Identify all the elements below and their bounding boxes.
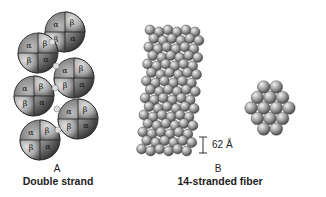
diagram-canvas: αββααββααββααββααββααββα <box>0 0 326 197</box>
subunit-sphere <box>137 144 147 154</box>
subunit-label: α <box>70 34 76 43</box>
subunit-sphere <box>164 146 174 156</box>
subunit-label: α <box>22 84 28 93</box>
subunit-sphere <box>173 144 183 154</box>
subunit-sphere <box>190 87 200 97</box>
subunit-sphere <box>143 119 153 129</box>
subunit-label: β <box>70 18 75 27</box>
hemoglobin-tetramer: αββα <box>54 58 94 98</box>
subunit-sphere <box>184 51 194 61</box>
subunit-sphere <box>145 85 155 95</box>
subunit-sphere <box>166 51 176 61</box>
subunit-label: α <box>79 80 85 89</box>
subunit-label: β <box>27 56 32 65</box>
subunit-label: β <box>63 81 68 90</box>
subunit-label: α <box>26 41 32 50</box>
subunit-label: β <box>23 99 28 108</box>
strand-cross-section <box>270 123 283 136</box>
subunit-sphere <box>146 146 156 156</box>
scale-bar <box>199 137 207 153</box>
subunit-sphere <box>188 121 198 131</box>
subunit-sphere <box>161 119 171 129</box>
scale-label: 62 Å <box>212 139 233 150</box>
subunit-label: α <box>39 98 45 107</box>
subunit-label: β <box>83 105 88 114</box>
subunit-sphere <box>144 102 154 112</box>
subunit-sphere <box>182 146 192 156</box>
subunit-sphere <box>165 68 175 78</box>
subunit-label: β <box>45 126 50 135</box>
hemoglobin-tetramer: αββα <box>14 76 54 116</box>
panel-b-letter: B <box>211 163 225 174</box>
subunit-sphere <box>192 70 202 80</box>
subunit-sphere <box>149 34 159 44</box>
subunit-label: β <box>39 82 44 91</box>
subunit-label: α <box>53 20 59 29</box>
subunit-sphere <box>155 144 165 154</box>
subunit-sphere <box>162 102 172 112</box>
subunit-sphere <box>148 51 158 61</box>
subunit-label: α <box>83 121 89 130</box>
fiber-side-view <box>137 25 204 156</box>
subunit-sphere <box>194 36 204 46</box>
subunit-sphere <box>179 119 189 129</box>
subunit-sphere <box>183 68 193 78</box>
subunit-label: β <box>67 122 72 131</box>
subunit-sphere <box>181 85 191 95</box>
hemoglobin-tetramer: αββα <box>58 99 98 139</box>
subunit-label: β <box>43 39 48 48</box>
hemoglobin-tetramer: αββα <box>20 120 60 160</box>
subunit-sphere <box>178 136 188 146</box>
subunit-sphere <box>160 136 170 146</box>
subunit-sphere <box>185 34 195 44</box>
subunit-label: α <box>62 66 68 75</box>
subunit-sphere <box>189 104 199 114</box>
subunit-sphere <box>147 68 157 78</box>
subunit-label: α <box>43 55 49 64</box>
subunit-label: α <box>45 142 51 151</box>
panel-a-letter: A <box>50 163 64 174</box>
strand-cross-section <box>257 123 270 136</box>
panel-b-caption: 14-stranded fiber <box>170 175 270 187</box>
subunit-label: β <box>79 64 84 73</box>
subunit-label: α <box>28 128 34 137</box>
subunit-sphere <box>187 138 197 148</box>
panel-a-caption: Double strand <box>18 175 98 187</box>
subunit-label: β <box>29 143 34 152</box>
subunit-label: α <box>66 107 72 116</box>
subunit-sphere <box>142 136 152 146</box>
subunit-sphere <box>180 102 190 112</box>
subunit-sphere <box>193 53 203 63</box>
fiber-cross-section <box>245 81 295 136</box>
subunit-sphere <box>167 34 177 44</box>
subunit-sphere <box>163 85 173 95</box>
